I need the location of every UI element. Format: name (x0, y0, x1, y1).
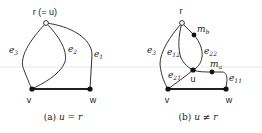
edge-e12 (179, 23, 193, 70)
edge-e1 (46, 23, 92, 89)
label-root: r (180, 6, 183, 16)
caption-b: (b) u ≠ r (178, 112, 218, 122)
node-u (190, 67, 195, 72)
label-e1: e1 (94, 49, 103, 60)
label-root: r (= u) (33, 7, 57, 17)
node-v (165, 86, 170, 91)
label-e3: e3 (9, 45, 18, 56)
label-e21: e21 (168, 70, 181, 81)
scan-band (0, 66, 262, 68)
label-ma: ma (210, 59, 223, 70)
node-v (29, 86, 34, 91)
label-e12: e12 (167, 47, 180, 58)
label-mb: mb (197, 24, 210, 35)
diagram-canvas: r (= u) v w e3 e2 e1 (a) u = r r u v w m… (0, 0, 262, 133)
label-w: w (89, 95, 97, 105)
caption-a: (a) u = r (44, 112, 83, 122)
node-mb (192, 33, 197, 38)
node-w (87, 86, 92, 91)
label-e3: e3 (147, 45, 156, 56)
panel-a: r (= u) v w e3 e2 e1 (a) u = r (9, 7, 103, 122)
label-e11: e11 (229, 73, 242, 84)
label-e2: e2 (68, 44, 77, 55)
node-r (180, 21, 185, 26)
label-w: w (225, 95, 233, 105)
label-e22: e22 (204, 46, 217, 57)
node-ma (210, 70, 215, 75)
label-v: v (165, 95, 170, 105)
label-u: u (190, 74, 195, 84)
node-w (223, 86, 228, 91)
label-v: v (27, 95, 32, 105)
edge-e3 (22, 23, 46, 89)
panel-b: r u v w mb ma e3 e12 e22 e21 e11 (b) u ≠… (147, 6, 242, 122)
node-r (44, 21, 49, 26)
